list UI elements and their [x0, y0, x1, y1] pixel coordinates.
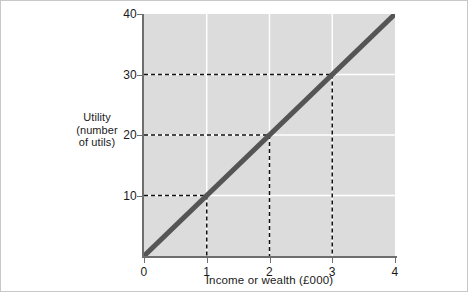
plot-svg [144, 14, 395, 256]
y-axis-title-line-1: Utility [55, 111, 139, 124]
plot-area [144, 14, 395, 256]
y-tick-label-40-wrap: 40 [93, 8, 137, 20]
y-tick-label-30-wrap: 30 [93, 69, 137, 81]
y-axis-spine [142, 14, 144, 258]
y-tick-label-10: 10 [97, 190, 137, 202]
y-tick-mark-40 [137, 14, 143, 15]
y-axis-title-line-3: of utils) [55, 136, 139, 149]
y-tick-label-10-wrap: 10 [93, 190, 137, 202]
y-tick-mark-10 [137, 196, 143, 197]
y-tick-mark-30 [137, 75, 143, 76]
x-axis-title: Income or wealth (£000) [144, 273, 395, 287]
y-tick-label-40: 40 [97, 8, 137, 20]
y-axis-title: Utility (number of utils) [55, 111, 139, 149]
y-axis-title-line-2: (number [55, 124, 139, 137]
chart-figure: 40 30 20 10 0 1 2 3 4 Utility (number of… [0, 0, 468, 292]
y-tick-label-30: 30 [97, 69, 137, 81]
